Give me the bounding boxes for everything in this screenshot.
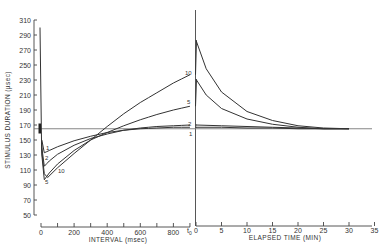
x-axis-interval: 0200400600800 INTERVAL (msec) t0 [39, 223, 192, 244]
curve-label-1-right: 1 [189, 131, 193, 137]
x-axis-elapsed-title: ELAPSED TIME (MIN) [249, 234, 321, 242]
curve-label-5-right: 5 [187, 99, 191, 105]
x-tick-label: 15 [269, 227, 277, 234]
y-tick-label: 90 [23, 182, 31, 189]
curve-1-interval [42, 127, 190, 153]
y-tick-label: 50 [23, 212, 31, 219]
y-tick-label: 150 [19, 137, 31, 144]
curve-label-10-right: 10 [185, 70, 192, 76]
t0-label: t0 [187, 227, 192, 236]
y-tick-label: 170 [19, 122, 31, 129]
x-tick-label: 35 [371, 227, 379, 234]
x-axis-elapsed: 05101520253035 ELAPSED TIME (MIN) [194, 222, 378, 242]
x-tick-label: 30 [345, 227, 353, 234]
curve-label-2: 2 [45, 155, 49, 161]
x-tick-label: 20 [294, 227, 302, 234]
curve-5-elapsed [196, 79, 349, 129]
x-tick-label: 600 [134, 229, 146, 236]
x-tick-label: 25 [320, 227, 328, 234]
x-tick-label: 400 [101, 229, 113, 236]
y-axis-title: STIMULUS DURATION (µsec) [4, 71, 12, 169]
y-tick-label: 190 [19, 107, 31, 114]
x-tick-label: 0 [39, 229, 43, 236]
initial-spike [39, 28, 42, 141]
y-tick-label: 210 [19, 92, 31, 99]
y-tick-label: 110 [20, 167, 31, 174]
x-tick-label: 10 [243, 227, 251, 234]
x-tick-label: 0 [194, 227, 198, 234]
y-tick-label: 130 [19, 152, 31, 159]
zero-marker [39, 124, 42, 134]
stimulus-duration-chart: 507090110130150170190210230250270290310 … [0, 0, 386, 247]
y-tick-label: 290 [19, 32, 31, 39]
y-tick-label: 270 [19, 47, 31, 54]
y-tick-label: 230 [19, 77, 31, 84]
y-axis: 507090110130150170190210230250270290310 … [4, 17, 37, 219]
curve-label-2-right: 2 [188, 121, 192, 127]
curve-label-10: 10 [58, 168, 65, 174]
x-tick-label: 200 [68, 229, 80, 236]
x-axis-interval-title: INTERVAL (msec) [89, 236, 148, 244]
curve-10-elapsed [196, 40, 349, 129]
x-tick-label: 5 [220, 227, 224, 234]
y-tick-label: 310 [19, 17, 31, 24]
y-tick-label: 70 [23, 197, 31, 204]
y-tick-label: 250 [19, 62, 31, 69]
curve-label-5: 5 [45, 179, 49, 185]
x-tick-label: 800 [168, 229, 180, 236]
